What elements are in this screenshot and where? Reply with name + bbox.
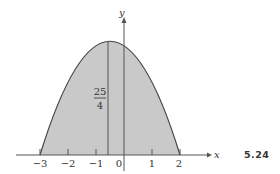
y-axis-label: y	[118, 7, 125, 18]
fraction-numerator: 25	[94, 86, 107, 97]
parabola-figure: x y −3 −2 −1 0 1 2 25 4 5.24	[0, 0, 280, 174]
x-axis-arrow-icon	[207, 153, 212, 158]
fraction-denominator: 4	[97, 100, 103, 111]
x-axis-label: x	[214, 149, 220, 160]
x-tick-label: −1	[89, 158, 104, 169]
figure-number: 5.24	[244, 149, 269, 160]
x-tick-label: 2	[176, 158, 182, 169]
x-tick-label: 1	[149, 158, 155, 169]
x-tick-label: −2	[61, 158, 76, 169]
x-tick-label: 0	[116, 158, 122, 169]
x-tick-label: −3	[33, 158, 48, 169]
